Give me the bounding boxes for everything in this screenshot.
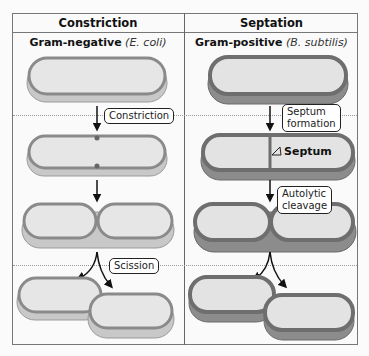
label-septum: Septum (284, 145, 332, 158)
label-constriction: Constriction (104, 108, 174, 124)
split-arrow-right-icon (270, 252, 284, 285)
label-line: formation (287, 118, 336, 130)
label-line: cleavage (282, 200, 327, 212)
gram-positive-cell-1 (208, 57, 348, 104)
gram-positive-cell-2 (201, 135, 355, 180)
gram-negative-cell-2 (27, 136, 167, 177)
gram-negative-cell-1 (27, 58, 167, 102)
label-line: Autolytic (282, 188, 327, 200)
gram-negative-daughter-cells (17, 278, 174, 338)
gram-positive-daughter-cells (189, 277, 354, 340)
split-arrow-left-icon (256, 252, 270, 278)
label-line: Septum (287, 106, 336, 118)
cell-illustrations (0, 0, 369, 356)
gram-positive-cell-3 (194, 204, 356, 252)
split-arrow-left-icon (80, 252, 97, 278)
gram-negative-cell-3 (22, 204, 174, 248)
label-septum-formation: Septumformation (282, 104, 341, 132)
label-autolytic-cleavage: Autolyticcleavage (277, 186, 332, 214)
label-scission: Scission (109, 258, 159, 274)
